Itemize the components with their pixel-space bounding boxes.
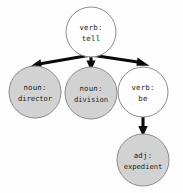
- parse-tree-diagram: verb: tell noun: director noun: division…: [0, 0, 183, 193]
- node-verb-be-circle[interactable]: [118, 67, 168, 117]
- node-verb-be-word-label: be: [138, 94, 148, 103]
- node-verb-tell-circle[interactable]: [66, 7, 116, 57]
- node-adj-expedient-circle[interactable]: [117, 134, 169, 186]
- node-verb-tell-pos-label: verb:: [79, 23, 102, 32]
- node-noun-director-circle[interactable]: [9, 66, 61, 118]
- node-verb-be[interactable]: verb: be: [118, 67, 168, 117]
- node-noun-division-circle[interactable]: [65, 67, 117, 119]
- node-verb-tell[interactable]: verb: tell: [66, 7, 116, 57]
- node-adj-expedient-pos-label: adj:: [134, 151, 153, 160]
- node-noun-director-word-label: director: [18, 94, 53, 103]
- node-noun-division[interactable]: noun: division: [65, 67, 117, 119]
- node-noun-director[interactable]: noun: director: [9, 66, 61, 118]
- node-noun-division-word-label: division: [74, 95, 108, 104]
- edge-root-to-be: [91, 55, 150, 66]
- graph-svg-canvas: verb: tell noun: director noun: division…: [0, 0, 183, 193]
- node-verb-be-pos-label: verb:: [131, 83, 154, 92]
- node-adj-expedient-word-label: expedient: [124, 162, 163, 171]
- node-noun-division-pos-label: noun:: [79, 84, 102, 93]
- node-noun-director-pos-label: noun:: [23, 83, 46, 92]
- node-verb-tell-word-label: tell: [82, 34, 101, 43]
- node-adj-expedient[interactable]: adj: expedient: [117, 134, 169, 186]
